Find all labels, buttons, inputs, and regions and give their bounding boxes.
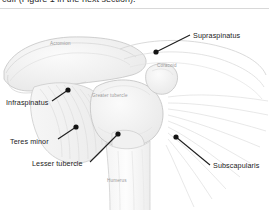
dot-teres-minor	[73, 124, 78, 129]
subscapularis-fan	[166, 95, 268, 207]
humeral-shaft	[106, 141, 150, 210]
label-coracoid: Coracoid	[157, 64, 177, 69]
caption-text: cuff (Figure 1 in the next section).	[2, 0, 135, 4]
label-humerus: Humerus	[107, 179, 127, 184]
dot-supraspinatus	[153, 49, 158, 54]
dot-subscapularis	[173, 134, 178, 139]
caption-clipped: cuff (Figure 1 in the next section).	[0, 0, 269, 7]
dot-lesser-tubercle	[115, 131, 120, 136]
label-infraspinatus: Infraspinatus	[6, 99, 48, 106]
anatomy-illustration: Supraspinatus Infraspinatus Teres minor …	[0, 8, 269, 210]
figure-container: cuff (Figure 1 in the next section).	[0, 0, 269, 210]
label-lesser-tubercle: Lesser tubercle	[32, 160, 83, 167]
label-acromion: Acromion	[50, 42, 71, 47]
label-greater-tubercle: Greater tubercle	[92, 94, 128, 99]
dot-infraspinatus	[65, 87, 70, 92]
label-teres-minor: Teres minor	[10, 138, 49, 145]
label-subscapularis: Subscapularis	[213, 162, 259, 169]
label-supraspinatus: Supraspinatus	[193, 32, 240, 39]
